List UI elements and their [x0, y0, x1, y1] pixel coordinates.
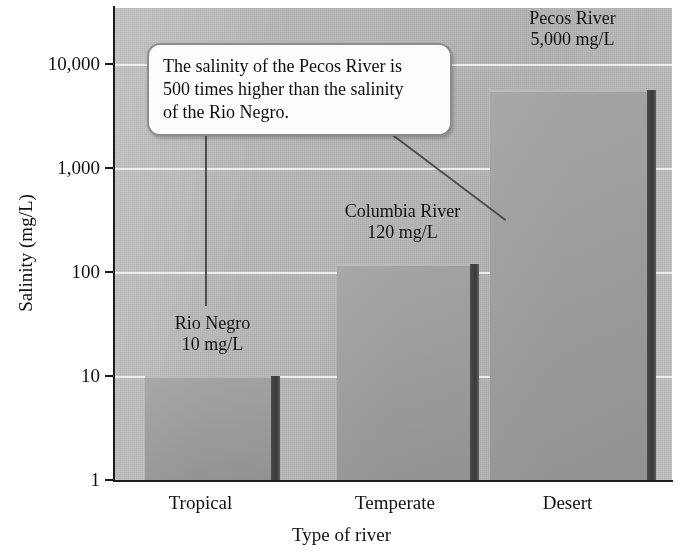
callout-line-2: 500 times higher than the salinity — [163, 78, 437, 101]
salinity-callout-box: The salinity of the Pecos River is 500 t… — [147, 43, 452, 136]
bar-face — [490, 90, 647, 480]
callout-line-1: The salinity of the Pecos River is — [163, 55, 437, 78]
x-tick-label-tropical: Tropical — [133, 492, 268, 514]
annotation-rio-negro-river: Rio Negro — [175, 313, 251, 333]
y-axis-title: Salinity (mg/L) — [15, 143, 37, 363]
annotation-columbia-river-river: Columbia River — [345, 201, 461, 221]
bar-top-edge — [145, 376, 271, 378]
y-tick-label-10: 10 — [0, 365, 100, 387]
y-tick-1 — [105, 479, 115, 481]
bar-face — [145, 376, 271, 480]
annotation-pecos-river-river: Pecos River — [529, 8, 615, 28]
annotation-columbia-river-value: 120 mg/L — [315, 222, 490, 243]
y-tick-1000 — [105, 167, 115, 169]
y-tick-label-1: 1 — [0, 469, 100, 491]
x-tick-label-desert: Desert — [495, 492, 640, 514]
chart-figure: 10,000 1,000 100 10 1 Salinity (mg/L) Tr… — [0, 0, 683, 559]
annotation-rio-negro: Rio Negro 10 mg/L — [140, 313, 285, 355]
bar-top-edge — [490, 90, 647, 92]
x-axis-title: Type of river — [0, 524, 683, 546]
x-axis-line — [113, 480, 673, 482]
y-tick-label-10000: 10,000 — [0, 53, 100, 75]
x-tick-label-temperate: Temperate — [325, 492, 465, 514]
y-axis-line — [113, 6, 115, 482]
bar-side-shadow — [470, 264, 479, 480]
bar-top-edge — [337, 264, 470, 266]
y-tick-100 — [105, 271, 115, 273]
bar-desert[interactable] — [490, 90, 647, 480]
callout-leader-line-rio-negro — [205, 135, 207, 306]
y-tick-10 — [105, 375, 115, 377]
bar-side-shadow — [647, 90, 656, 480]
bar-side-shadow — [271, 376, 280, 480]
annotation-rio-negro-value: 10 mg/L — [140, 334, 285, 355]
bar-temperate[interactable] — [337, 264, 470, 480]
y-tick-10000 — [105, 63, 115, 65]
bar-face — [337, 264, 470, 480]
callout-line-3: of the Rio Negro. — [163, 101, 437, 124]
annotation-pecos-river-value: 5,000 mg/L — [490, 29, 655, 50]
annotation-columbia-river: Columbia River 120 mg/L — [315, 201, 490, 243]
annotation-pecos-river: Pecos River 5,000 mg/L — [490, 8, 655, 50]
bar-tropical[interactable] — [145, 376, 271, 480]
